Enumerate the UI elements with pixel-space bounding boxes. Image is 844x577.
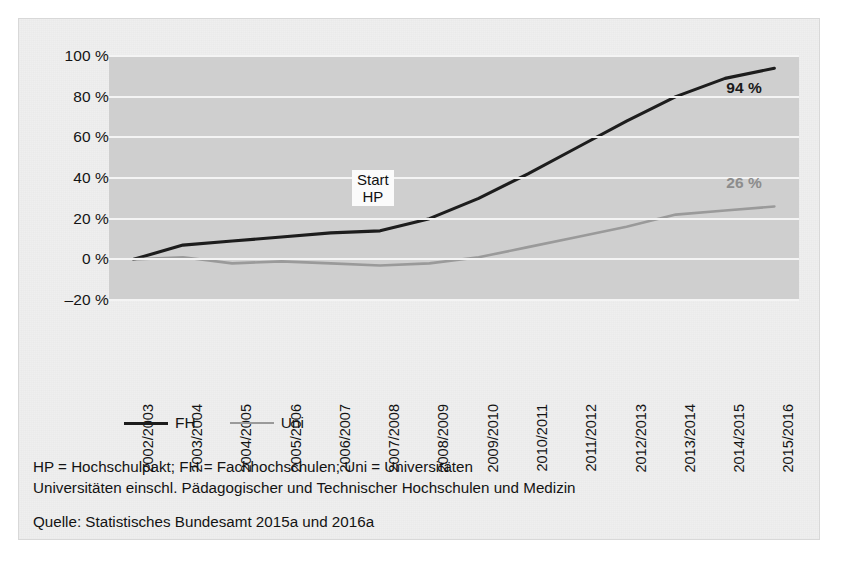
figure-card: 100 %80 %60 %40 %20 %0 %–20 % Start HP 9…: [18, 18, 820, 540]
legend-label-uni: Uni: [281, 414, 304, 432]
legend-item-uni[interactable]: Uni: [230, 414, 304, 432]
footnotes: HP = Hochschulpakt; FH = Fachhochschulen…: [33, 456, 803, 532]
annotation-start-hp-line1: Start: [357, 171, 389, 188]
y-axis-tick: 20 %: [33, 210, 109, 228]
annotation-start-hp: Start HP: [352, 170, 394, 206]
legend-swatch-uni: [230, 422, 274, 424]
gridline: [109, 55, 799, 57]
y-axis-tick: 0 %: [33, 250, 109, 268]
series-line-uni: [134, 206, 775, 265]
y-axis-tick: 60 %: [33, 128, 109, 146]
value-label-uni: 26 %: [726, 174, 761, 192]
value-label-fh: 94 %: [726, 79, 761, 97]
x-axis: 2002/20032003/20042004/20052005/20062006…: [109, 300, 799, 410]
chart-legend: FHUni: [124, 414, 304, 432]
gridline: [109, 136, 799, 138]
gridline: [109, 218, 799, 220]
gridline: [109, 258, 799, 260]
footnote-abbreviations: HP = Hochschulpakt; FH = Fachhochschulen…: [33, 456, 803, 477]
y-axis-tick: 40 %: [33, 169, 109, 187]
footnote-scope: Universitäten einschl. Pädagogischer und…: [33, 477, 803, 498]
y-axis-tick: –20 %: [33, 291, 109, 309]
y-axis-tick: 80 %: [33, 88, 109, 106]
gridline: [109, 96, 799, 98]
gridline: [109, 177, 799, 179]
plot-area: [109, 56, 799, 300]
y-axis-tick: 100 %: [33, 47, 109, 65]
legend-swatch-fh: [124, 422, 168, 425]
annotation-start-hp-line2: HP: [357, 188, 389, 205]
legend-label-fh: FH: [175, 414, 196, 432]
legend-item-fh[interactable]: FH: [124, 414, 196, 432]
footnote-source: Quelle: Statistisches Bundesamt 2015a un…: [33, 511, 803, 532]
